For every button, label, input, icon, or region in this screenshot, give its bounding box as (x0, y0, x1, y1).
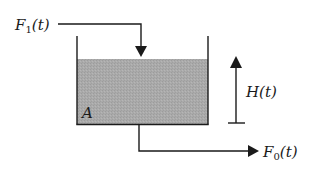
inflow-arrowhead-icon (135, 46, 147, 57)
height-label: H(t) (245, 83, 277, 101)
inflow-arrow (58, 24, 141, 47)
area-label: A (80, 104, 93, 122)
height-indicator (228, 66, 245, 123)
liquid-fill (77, 59, 208, 124)
height-arrowhead-icon (230, 56, 242, 68)
outflow-arrowhead-icon (248, 145, 259, 157)
tank-diagram: F1(t) H(t) F0(t) A (0, 0, 314, 170)
inflow-label: F1(t) (14, 16, 50, 35)
outflow-arrow (139, 125, 250, 152)
outflow-label: F0(t) (262, 143, 298, 162)
